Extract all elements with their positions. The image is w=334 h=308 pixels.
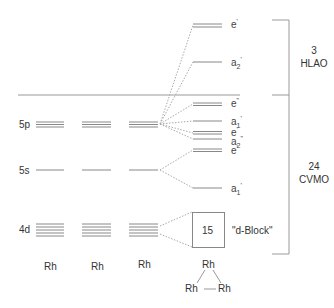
- atom-label-rh-2: Rh: [91, 262, 104, 272]
- mo-levels: [193, 24, 222, 188]
- cvmo-text: CVMO: [294, 173, 334, 186]
- cluster-rh-bottom-left: Rh: [185, 284, 198, 294]
- cluster-rh-top: Rh: [202, 260, 215, 270]
- ao-label-4d: 4d: [19, 225, 30, 235]
- 4d-levels: [36, 224, 158, 236]
- bracket-hlao-label: 3 HLAO: [294, 44, 334, 70]
- mo-label-e-prime-lower: e': [231, 146, 238, 156]
- atom-label-rh-3: Rh: [138, 260, 151, 270]
- hlao-count: 3: [294, 44, 334, 57]
- cluster-rh-bottom-right: Rh: [218, 284, 231, 294]
- cvmo-count: 24: [294, 160, 334, 173]
- mo-label-a2-prime: a2': [231, 58, 242, 68]
- hlao-text: HLAO: [294, 57, 334, 70]
- mo-label-e-prime-hlao: e': [231, 20, 238, 30]
- d-block-label: "d-Block": [232, 226, 272, 236]
- correlation-lines: [160, 25, 193, 247]
- mo-diagram: 5p 5s 4d Rh Rh Rh e' a2' e" a1' e' a2" e…: [0, 0, 334, 308]
- atom-label-rh-1: Rh: [44, 262, 57, 272]
- d-block-count: 15: [202, 226, 213, 236]
- brackets: [272, 20, 289, 254]
- ao-label-5p: 5p: [19, 120, 30, 130]
- mo-label-e-double-prime: e": [231, 99, 239, 109]
- bracket-cvmo-label: 24 CVMO: [294, 160, 334, 186]
- 5p-levels: [36, 122, 158, 127]
- ao-label-5s: 5s: [19, 166, 30, 176]
- mo-label-a1-prime-lower: a1': [231, 184, 242, 194]
